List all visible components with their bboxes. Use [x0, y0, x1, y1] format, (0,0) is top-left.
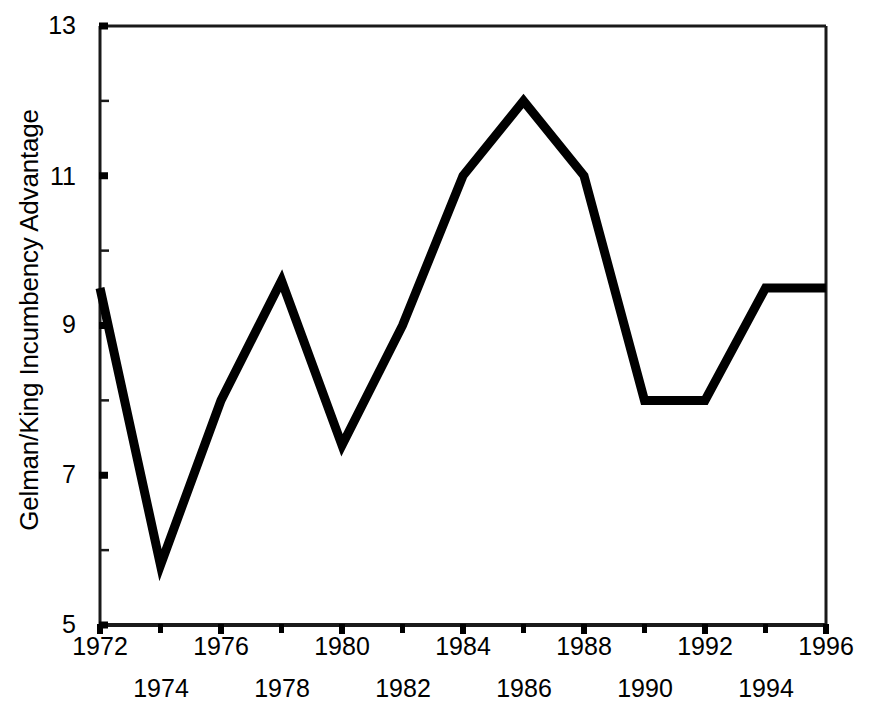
data-line-series — [100, 101, 826, 565]
plot-area — [0, 0, 872, 716]
chart-figure: Gelman/King Incumbency Advantage 13 11 9… — [0, 0, 872, 716]
